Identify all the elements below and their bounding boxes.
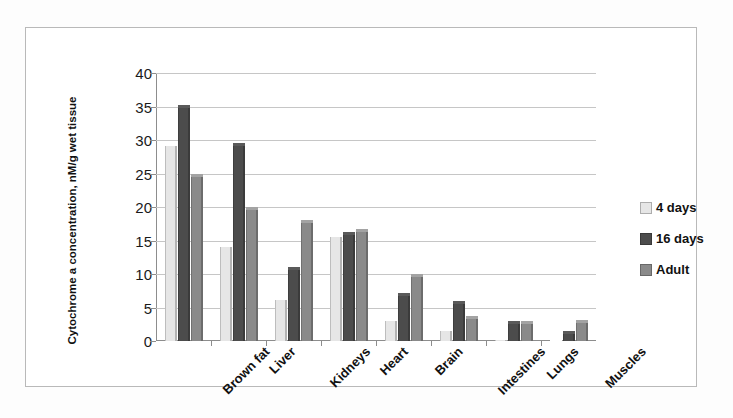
bar-group xyxy=(486,73,541,341)
bar[interactable] xyxy=(508,321,520,341)
bar-group xyxy=(541,73,596,341)
bar-group xyxy=(156,73,211,341)
bar[interactable] xyxy=(453,301,465,341)
bar-side xyxy=(353,235,355,341)
bar-side xyxy=(573,334,575,341)
legend-swatch-icon xyxy=(640,264,652,276)
bar-side xyxy=(366,232,368,341)
bar-side xyxy=(476,319,478,341)
bar-group xyxy=(211,73,266,341)
y-tick-label: 30 xyxy=(110,132,152,149)
x-axis-label: Kidneys xyxy=(326,344,372,390)
bar-group xyxy=(321,73,376,341)
bar-side xyxy=(518,324,520,341)
x-axis-labels: Brown fatLiverKidneysHeartBrainIntestine… xyxy=(156,344,596,414)
bar[interactable] xyxy=(233,143,245,341)
bar-side xyxy=(285,300,287,341)
bar-side xyxy=(311,223,313,341)
bar[interactable] xyxy=(356,229,368,341)
bar-group xyxy=(376,73,431,341)
x-axis-label: Liver xyxy=(266,344,299,377)
y-tick-label: 35 xyxy=(110,98,152,115)
legend-item[interactable]: Adult xyxy=(640,262,720,277)
bar[interactable] xyxy=(246,207,258,341)
bar[interactable] xyxy=(563,331,575,341)
plot-inner xyxy=(156,73,596,341)
bar[interactable] xyxy=(275,297,287,341)
bar-side xyxy=(531,324,533,341)
bar-side xyxy=(450,331,452,341)
bar[interactable] xyxy=(165,143,177,341)
bar-side xyxy=(463,304,465,341)
bar-side xyxy=(408,296,410,341)
legend-swatch-icon xyxy=(640,202,652,214)
legend-item[interactable]: 4 days xyxy=(640,200,720,215)
y-tick-label: 25 xyxy=(110,165,152,182)
legend-label: 16 days xyxy=(656,231,704,246)
legend-label: Adult xyxy=(656,262,689,277)
y-tick-label: 15 xyxy=(110,232,152,249)
bar[interactable] xyxy=(550,338,562,341)
bar[interactable] xyxy=(343,232,355,341)
y-axis-title-text: Cytochrome a concentration, nM/g wet tis… xyxy=(66,96,81,344)
x-axis-label: Brown fat xyxy=(219,344,272,397)
bar[interactable] xyxy=(178,105,190,342)
bar-side xyxy=(421,277,423,341)
bar-side xyxy=(395,321,397,341)
legend-label: 4 days xyxy=(656,200,696,215)
x-axis-label: Intestines xyxy=(494,344,548,398)
bar-side xyxy=(175,146,177,341)
bar-side xyxy=(340,237,342,341)
y-tick-label: 5 xyxy=(110,299,152,316)
x-axis-label: Brain xyxy=(431,344,465,378)
plot-area xyxy=(156,73,596,341)
bar-side xyxy=(586,323,588,341)
bar-group xyxy=(266,73,321,341)
y-axis-title: Cytochrome a concentration, nM/g wet tis… xyxy=(56,75,90,365)
bar[interactable] xyxy=(301,220,313,341)
legend-swatch-icon xyxy=(640,233,652,245)
bar[interactable] xyxy=(220,244,232,341)
bar[interactable] xyxy=(191,174,203,342)
y-tick-label: 40 xyxy=(110,65,152,82)
bar-side xyxy=(201,177,203,342)
figure: Cytochrome a concentration, nM/g wet tis… xyxy=(0,0,733,418)
y-axis-tick-labels: 0510152025303540 xyxy=(104,73,152,341)
x-axis-label: Lungs xyxy=(543,344,581,382)
y-tick-label: 20 xyxy=(110,199,152,216)
bar[interactable] xyxy=(330,234,342,341)
bar-side xyxy=(298,270,300,341)
x-axis-label: Muscles xyxy=(602,344,649,391)
bar-side xyxy=(188,108,190,342)
bar-group xyxy=(431,73,486,341)
bar[interactable] xyxy=(288,267,300,341)
y-tick-label: 0 xyxy=(110,333,152,350)
y-tick-mark xyxy=(150,341,156,342)
bar[interactable] xyxy=(576,320,588,341)
bar[interactable] xyxy=(440,328,452,341)
bar[interactable] xyxy=(398,293,410,341)
bar-side xyxy=(256,210,258,341)
bar[interactable] xyxy=(521,321,533,341)
bar[interactable] xyxy=(495,337,507,341)
bar-side xyxy=(505,340,507,341)
bar-top-cap xyxy=(550,338,562,341)
bar-side xyxy=(243,146,245,341)
chart-frame: Cytochrome a concentration, nM/g wet tis… xyxy=(25,27,697,387)
chart-legend: 4 days16 daysAdult xyxy=(640,200,720,293)
legend-item[interactable]: 16 days xyxy=(640,231,720,246)
bar[interactable] xyxy=(466,316,478,341)
bar[interactable] xyxy=(385,318,397,341)
x-axis-label: Heart xyxy=(376,344,410,378)
bar-side xyxy=(230,247,232,341)
bar[interactable] xyxy=(411,274,423,341)
y-tick-label: 10 xyxy=(110,266,152,283)
